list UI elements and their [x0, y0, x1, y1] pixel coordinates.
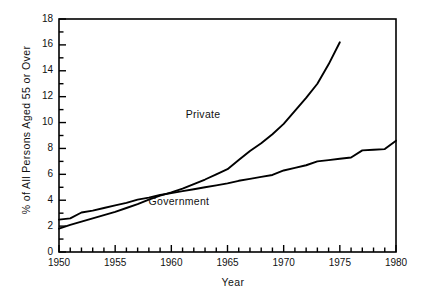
y-tick-label: 0: [27, 246, 53, 257]
chart-figure: % of All Persons Aged 55 or Over Year 02…: [0, 0, 427, 296]
y-tick-label: 4: [27, 194, 53, 205]
series-label-private: Private: [186, 108, 221, 120]
plot-frame: [59, 19, 396, 252]
x-tick-label: 1975: [320, 257, 360, 268]
axis-ticks: [59, 19, 396, 252]
y-tick-label: 14: [27, 64, 53, 75]
y-tick-label: 2: [27, 220, 53, 231]
x-tick-label: 1960: [151, 257, 191, 268]
y-tick-label: 18: [27, 13, 53, 24]
x-tick-label: 1955: [95, 257, 135, 268]
data-lines: [59, 42, 396, 228]
y-tick-label: 12: [27, 90, 53, 101]
y-tick-label: 8: [27, 142, 53, 153]
x-tick-label: 1980: [376, 257, 416, 268]
x-tick-label: 1950: [39, 257, 79, 268]
x-tick-label: 1965: [208, 257, 248, 268]
x-axis-title: Year: [198, 276, 268, 288]
y-tick-label: 10: [27, 116, 53, 127]
chart-canvas: [0, 0, 427, 296]
series-label-government: Government: [149, 195, 210, 207]
x-tick-label: 1970: [264, 257, 304, 268]
y-tick-label: 6: [27, 168, 53, 179]
y-tick-label: 16: [27, 38, 53, 49]
